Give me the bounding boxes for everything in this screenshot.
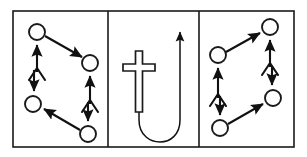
left-node-mid-left	[25, 96, 41, 112]
right-node-mid-right	[265, 90, 281, 106]
right-node-bottom-left	[212, 120, 228, 136]
left-node-top-left	[29, 24, 45, 40]
figure-container	[0, 0, 307, 157]
left-node-mid-right	[82, 55, 98, 71]
left-node-bottom-right	[80, 126, 96, 142]
diagram-outer-frame	[13, 11, 294, 147]
right-node-mid-left	[210, 47, 226, 63]
three-panel-diagram	[0, 0, 307, 157]
right-node-top-right	[262, 19, 278, 35]
